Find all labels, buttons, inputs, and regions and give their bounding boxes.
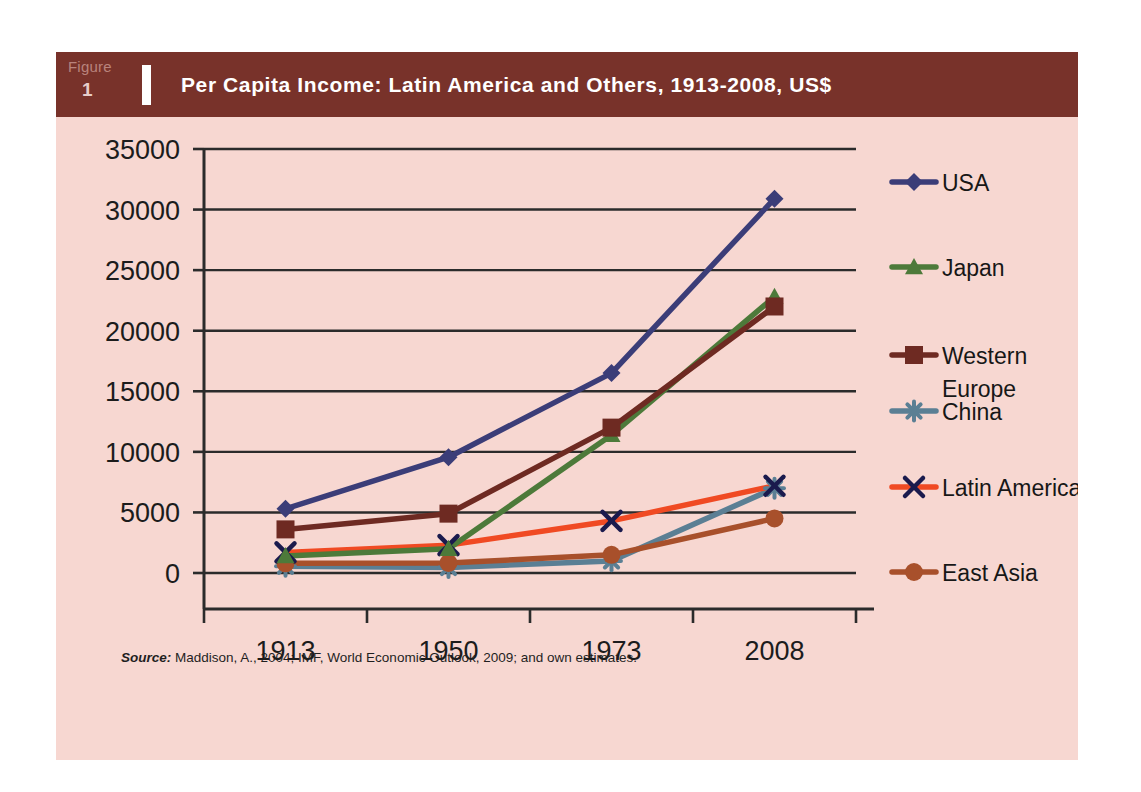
series-line-east-asia bbox=[286, 518, 775, 563]
legend-label-china: China bbox=[942, 399, 1002, 425]
data-point-marker bbox=[905, 402, 924, 421]
y-axis-tick-label: 25000 bbox=[105, 256, 180, 286]
legend-label-east-asia: East Asia bbox=[942, 560, 1038, 586]
source-text: Maddison, A., 2004; IMF, World Economic … bbox=[171, 650, 637, 665]
y-axis-tick-label: 35000 bbox=[105, 135, 180, 165]
chart-axes bbox=[204, 149, 874, 609]
figure-header-bar: Figure 1 Per Capita Income: Latin Americ… bbox=[56, 52, 1078, 117]
data-point-marker bbox=[766, 297, 784, 315]
legend-label-usa: USA bbox=[942, 170, 990, 196]
y-axis-tick-label: 20000 bbox=[105, 317, 180, 347]
figure-tag: Figure 1 bbox=[56, 52, 142, 117]
data-point-marker bbox=[603, 546, 621, 564]
figure-panel: Figure 1 Per Capita Income: Latin Americ… bbox=[56, 52, 1078, 760]
y-axis-tick-label: 0 bbox=[165, 559, 180, 589]
data-point-marker bbox=[905, 173, 923, 191]
chart-y-axis-labels: 05000100001500020000250003000035000 bbox=[105, 135, 180, 589]
data-point-marker bbox=[440, 554, 458, 572]
data-point-marker bbox=[277, 500, 295, 518]
chart-series-layer bbox=[276, 190, 784, 577]
series-line-usa bbox=[286, 199, 775, 509]
legend-label-japan: Japan bbox=[942, 255, 1005, 281]
data-point-marker bbox=[440, 505, 458, 523]
figure-tag-number: 1 bbox=[82, 79, 93, 101]
data-point-marker bbox=[766, 509, 784, 527]
y-axis-tick-label: 5000 bbox=[120, 498, 180, 528]
chart-legend: USAJapanWesternEuropeChinaLatin AmericaE… bbox=[892, 170, 1078, 586]
source-label: Source: bbox=[121, 650, 171, 665]
y-axis-tick-label: 30000 bbox=[105, 196, 180, 226]
source-note: Source: Maddison, A., 2004; IMF, World E… bbox=[121, 650, 637, 665]
y-axis-tick-label: 15000 bbox=[105, 377, 180, 407]
legend-label-western-europe: Western bbox=[942, 343, 1027, 369]
data-point-marker bbox=[905, 563, 923, 581]
figure-header-divider bbox=[142, 65, 151, 105]
chart-y-tick-marks bbox=[193, 149, 204, 573]
chart-x-tick-marks bbox=[204, 609, 856, 623]
page-title: Per Capita Income: Latin America and Oth… bbox=[181, 73, 832, 97]
data-point-marker bbox=[905, 346, 923, 364]
x-axis-tick-label: 2008 bbox=[744, 636, 804, 666]
legend-label-latin-america: Latin America bbox=[942, 475, 1078, 501]
data-point-marker bbox=[277, 520, 295, 538]
series-line-japan bbox=[286, 297, 775, 556]
figure-tag-word: Figure bbox=[68, 58, 112, 75]
y-axis-tick-label: 10000 bbox=[105, 438, 180, 468]
data-point-marker bbox=[603, 419, 621, 437]
